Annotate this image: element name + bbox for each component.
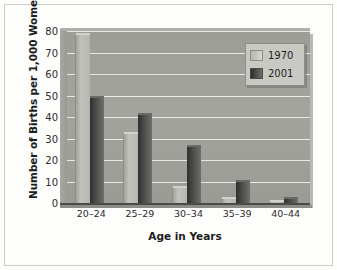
bar-top-face bbox=[222, 197, 236, 199]
x-axis-title: Age in Years bbox=[60, 230, 310, 242]
legend-swatch-1970 bbox=[250, 50, 263, 61]
chart-legend: 1970 2001 bbox=[245, 43, 305, 86]
y-tick-label: 60 bbox=[34, 69, 58, 80]
bar-top-face bbox=[284, 197, 298, 199]
y-tick-label: 40 bbox=[34, 112, 58, 123]
y-tick-label: 70 bbox=[34, 47, 58, 58]
bar-top-face bbox=[236, 180, 250, 182]
bar-1970-30-34 bbox=[172, 187, 187, 203]
bar-top-face bbox=[187, 145, 201, 147]
legend-label-1970: 1970 bbox=[268, 50, 293, 61]
legend-swatch-2001 bbox=[250, 68, 263, 79]
bar-top-face bbox=[76, 33, 90, 35]
gridline bbox=[67, 31, 310, 32]
legend-item-1970: 1970 bbox=[250, 47, 293, 63]
bar-2001-20-24 bbox=[90, 97, 104, 203]
plot-panel-side-face bbox=[60, 31, 67, 205]
bar-top-face bbox=[270, 200, 284, 202]
y-axis-tick-labels: 01020304050607080 bbox=[32, 0, 58, 270]
bar-top-face bbox=[138, 113, 152, 115]
y-tick-label: 80 bbox=[34, 26, 58, 37]
legend-item-2001: 2001 bbox=[250, 65, 293, 81]
bar-1970-20-24 bbox=[75, 34, 90, 203]
y-tick-label: 20 bbox=[34, 155, 58, 166]
legend-label-2001: 2001 bbox=[268, 68, 293, 79]
bar-2001-40-44 bbox=[284, 198, 298, 203]
bar-1970-40-44 bbox=[269, 201, 284, 203]
y-tick-label: 30 bbox=[34, 133, 58, 144]
bar-2001-35-39 bbox=[236, 181, 250, 204]
bar-top-face bbox=[90, 96, 104, 98]
bar-1970-25-29 bbox=[123, 133, 138, 203]
bar-top-face bbox=[173, 186, 187, 188]
chart-figure: Number of Births per 1,000 Women 0102030… bbox=[0, 0, 337, 270]
x-axis-tick-labels: 20–2425–2930–3435–3940–44 bbox=[60, 208, 310, 224]
bar-top-face bbox=[124, 132, 138, 134]
y-tick-label: 10 bbox=[34, 176, 58, 187]
bar-2001-25-29 bbox=[138, 114, 152, 203]
bar-2001-30-34 bbox=[187, 146, 201, 203]
y-tick-label: 0 bbox=[34, 198, 58, 209]
y-tick-label: 50 bbox=[34, 90, 58, 101]
bar-1970-35-39 bbox=[221, 198, 236, 203]
x-tick-label: 40–44 bbox=[256, 208, 316, 219]
